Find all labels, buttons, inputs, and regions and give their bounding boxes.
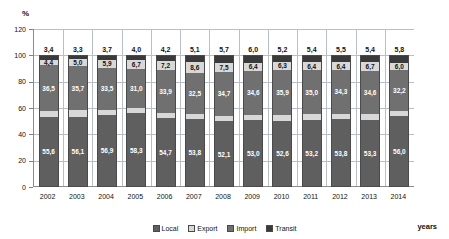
- segment-transit[interactable]: [302, 55, 322, 62]
- bar-column[interactable]: 52,635,96,35,2: [272, 55, 292, 187]
- segment-transit[interactable]: [360, 55, 380, 62]
- segment-export[interactable]: [360, 114, 380, 120]
- segment-import[interactable]: 33,9: [156, 70, 176, 113]
- segment-local[interactable]: 56,1: [68, 117, 88, 187]
- segment-value-label: 6,7: [127, 61, 145, 68]
- segment-import[interactable]: 33,5: [97, 68, 117, 110]
- segment-transit[interactable]: [156, 55, 176, 60]
- segment-import-band[interactable]: 6,7: [360, 62, 380, 70]
- segment-import[interactable]: 31,0: [126, 69, 146, 108]
- bar-column[interactable]: 56,933,55,93,7: [97, 55, 117, 187]
- bar-column[interactable]: 53,834,36,45,5: [331, 55, 351, 187]
- segment-import[interactable]: 34,3: [331, 70, 351, 113]
- segment-export[interactable]: [302, 114, 322, 120]
- segment-export[interactable]: [97, 110, 117, 115]
- segment-import[interactable]: 32,2: [389, 70, 409, 111]
- segment-export[interactable]: [126, 108, 146, 113]
- transit-value-label: 5,4: [302, 46, 322, 53]
- segment-import[interactable]: 35,9: [272, 70, 292, 115]
- segment-local[interactable]: 52,1: [214, 121, 234, 187]
- segment-export[interactable]: [243, 115, 263, 121]
- segment-local[interactable]: 53,0: [243, 120, 263, 187]
- segment-local[interactable]: 53,8: [331, 119, 351, 187]
- legend-swatch-icon: [188, 225, 195, 232]
- segment-import-band[interactable]: 4,4: [39, 60, 59, 66]
- bar-column[interactable]: 58,331,06,74,0: [126, 55, 146, 187]
- segment-transit[interactable]: [68, 55, 88, 59]
- segment-import[interactable]: 34,6: [360, 71, 380, 115]
- segment-export[interactable]: [272, 115, 292, 121]
- segment-value-label: 35,9: [273, 89, 291, 96]
- segment-import-band[interactable]: 6,4: [243, 63, 263, 71]
- gridline-vertical: [385, 29, 386, 187]
- segment-import-band[interactable]: 8,6: [185, 62, 205, 73]
- segment-import[interactable]: 32,5: [185, 73, 205, 114]
- bar-column[interactable]: 54,733,97,24,2: [156, 55, 176, 187]
- segment-value-label: 6,3: [273, 62, 291, 69]
- legend-item-local[interactable]: Local: [153, 225, 179, 232]
- segment-import[interactable]: 36,5: [39, 65, 59, 111]
- segment-value-label: 52,1: [215, 151, 233, 158]
- segment-import-band[interactable]: 5,9: [97, 60, 117, 67]
- segment-export[interactable]: [389, 111, 409, 116]
- segment-export[interactable]: [214, 116, 234, 122]
- segment-export[interactable]: [331, 114, 351, 120]
- bar-column[interactable]: 53,832,58,65,1: [185, 55, 205, 187]
- segment-local[interactable]: 53,8: [185, 119, 205, 187]
- segment-local[interactable]: 53,3: [360, 120, 380, 187]
- segment-export[interactable]: [156, 113, 176, 118]
- bar-column[interactable]: 56,032,26,05,8: [389, 55, 409, 187]
- segment-import[interactable]: 34,7: [214, 72, 234, 116]
- segment-import-band[interactable]: 6,0: [389, 63, 409, 71]
- segment-transit[interactable]: [126, 55, 146, 60]
- segment-import-band[interactable]: 6,4: [302, 62, 322, 70]
- segment-import-band[interactable]: 6,3: [272, 62, 292, 70]
- segment-import-band[interactable]: 7,5: [214, 63, 234, 72]
- segment-transit[interactable]: [185, 55, 205, 61]
- segment-export[interactable]: [68, 110, 88, 117]
- bar-column[interactable]: 52,134,77,55,7: [214, 55, 234, 187]
- segment-value-label: 4,4: [40, 59, 58, 66]
- segment-local[interactable]: 54,7: [156, 118, 176, 187]
- segment-transit[interactable]: [214, 55, 234, 62]
- bar-column[interactable]: 53,235,06,45,4: [302, 55, 322, 187]
- segment-value-label: 7,2: [157, 62, 175, 69]
- segment-import[interactable]: 34,6: [243, 71, 263, 115]
- segment-local[interactable]: 56,0: [389, 116, 409, 187]
- gridline-vertical: [239, 29, 240, 187]
- gridline-vertical: [209, 29, 210, 187]
- x-axis-tick-2014: 2014: [378, 193, 418, 200]
- bar-column[interactable]: 53,034,66,46,0: [243, 55, 263, 187]
- segment-local[interactable]: 56,9: [97, 115, 117, 187]
- segment-value-label: 5,9: [98, 60, 116, 67]
- legend-item-import[interactable]: Import: [227, 225, 256, 232]
- segment-transit[interactable]: [97, 55, 117, 60]
- bar-column[interactable]: 55,636,54,43,4: [39, 55, 59, 187]
- gridline-vertical: [92, 29, 93, 187]
- segment-transit[interactable]: [331, 55, 351, 62]
- segment-value-label: 6,4: [332, 63, 350, 70]
- segment-export[interactable]: [39, 111, 59, 117]
- legend-item-transit[interactable]: Transit: [266, 225, 296, 232]
- bar-column[interactable]: 53,334,66,75,4: [360, 55, 380, 187]
- segment-import-band[interactable]: 6,4: [331, 62, 351, 70]
- gridline-vertical: [356, 29, 357, 187]
- segment-transit[interactable]: [243, 55, 263, 63]
- segment-transit[interactable]: [389, 55, 409, 62]
- bar-column[interactable]: 56,135,75,03,3: [68, 55, 88, 187]
- segment-transit[interactable]: [272, 55, 292, 62]
- transit-value-label: 3,7: [97, 46, 117, 53]
- segment-local[interactable]: 55,6: [39, 117, 59, 187]
- legend-item-export[interactable]: Export: [188, 225, 217, 232]
- segment-local[interactable]: 52,6: [272, 121, 292, 187]
- segment-import-band[interactable]: 6,7: [126, 60, 146, 68]
- segment-transit[interactable]: [39, 55, 59, 59]
- segment-local[interactable]: 58,3: [126, 113, 146, 187]
- segment-import-band[interactable]: 5,0: [68, 59, 88, 65]
- segment-import[interactable]: 35,7: [68, 66, 88, 111]
- segment-value-label: 53,2: [303, 150, 321, 157]
- segment-import[interactable]: 35,0: [302, 70, 322, 114]
- segment-export[interactable]: [185, 114, 205, 119]
- segment-local[interactable]: 53,2: [302, 120, 322, 187]
- segment-import-band[interactable]: 7,2: [156, 61, 176, 70]
